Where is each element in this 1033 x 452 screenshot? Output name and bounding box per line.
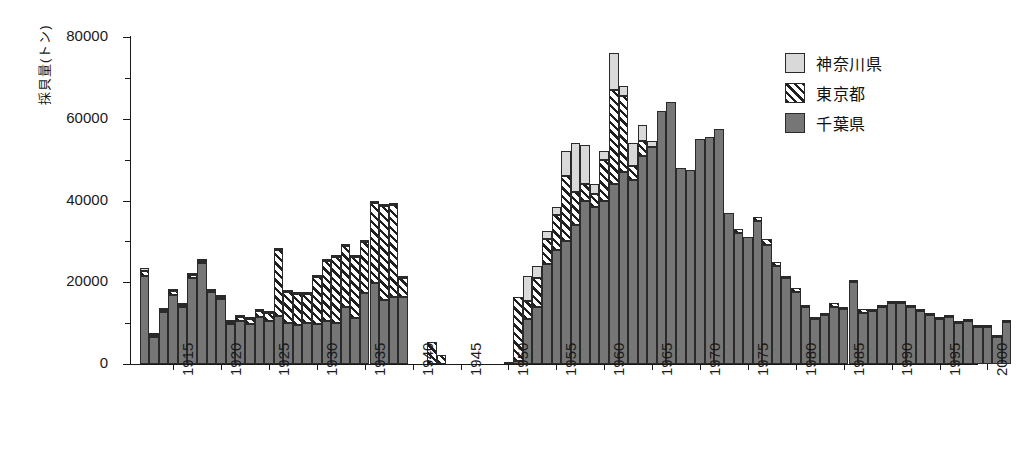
bar-segment-chiba bbox=[398, 297, 408, 364]
bar bbox=[657, 111, 667, 364]
bar-segment-kanagawa bbox=[245, 317, 255, 319]
x-tick-label: 1955 bbox=[562, 343, 579, 376]
bar bbox=[877, 305, 887, 364]
bar-segment-tokyo bbox=[437, 355, 447, 364]
bar-segment-tokyo bbox=[609, 90, 619, 184]
bar-segment-kanagawa bbox=[619, 86, 629, 96]
bar-segment-chiba bbox=[264, 321, 274, 364]
y-tick-major bbox=[123, 119, 130, 120]
bar bbox=[839, 307, 849, 364]
bar-segment-kanagawa bbox=[398, 276, 408, 278]
bar-segment-kanagawa bbox=[322, 259, 332, 261]
y-tick-minor bbox=[125, 241, 130, 242]
bar-segment-tokyo bbox=[283, 292, 293, 323]
bar-segment-tokyo bbox=[963, 319, 973, 321]
bar-segment-tokyo bbox=[906, 305, 916, 307]
bar-segment-kanagawa bbox=[264, 311, 274, 313]
bar-segment-kanagawa bbox=[360, 240, 370, 242]
bar-segment-tokyo bbox=[322, 261, 332, 320]
legend-item: 千葉県 bbox=[785, 108, 1015, 138]
bar-segment-chiba bbox=[619, 172, 629, 364]
bar-segment-kanagawa bbox=[216, 295, 226, 297]
legend-label: 千葉県 bbox=[816, 111, 866, 135]
bar-segment-chiba bbox=[590, 207, 600, 364]
bar-segment-chiba bbox=[772, 266, 782, 364]
y-tick-major bbox=[123, 282, 130, 283]
y-tick-label: 60000 bbox=[66, 109, 108, 126]
legend-label: 東京都 bbox=[816, 81, 866, 105]
bar bbox=[628, 143, 638, 364]
x-tick bbox=[269, 364, 270, 370]
bar-segment-chiba bbox=[781, 278, 791, 364]
x-tick-label: 1940 bbox=[419, 343, 436, 376]
bar-segment-chiba bbox=[714, 129, 724, 364]
bar-segment-chiba bbox=[647, 147, 657, 364]
bar bbox=[341, 245, 351, 364]
bar-segment-tokyo bbox=[370, 203, 380, 283]
bar bbox=[820, 313, 830, 364]
bar bbox=[590, 184, 600, 364]
bar-segment-chiba bbox=[599, 201, 609, 365]
x-tick-label: 1975 bbox=[754, 343, 771, 376]
bar bbox=[159, 308, 169, 364]
bar bbox=[312, 276, 322, 364]
x-tick bbox=[221, 364, 222, 370]
x-tick bbox=[940, 364, 941, 370]
bar-segment-chiba bbox=[207, 292, 217, 364]
bar bbox=[772, 262, 782, 364]
bar-segment-kanagawa bbox=[638, 125, 648, 141]
bar-segment-tokyo bbox=[839, 307, 849, 309]
x-tick-label: 1950 bbox=[514, 343, 531, 376]
bar-segment-tokyo bbox=[868, 309, 878, 311]
y-tick-major bbox=[123, 364, 130, 365]
bar-segment-tokyo bbox=[245, 319, 255, 324]
bar-segment-chiba bbox=[216, 299, 226, 364]
bar-segment-tokyo bbox=[820, 313, 830, 315]
bar-segment-kanagawa bbox=[149, 333, 159, 335]
bar-segment-chiba bbox=[542, 264, 552, 364]
bar-segment-chiba bbox=[389, 297, 399, 364]
bar-segment-chiba bbox=[140, 276, 150, 364]
bar-segment-kanagawa bbox=[379, 204, 389, 206]
bar-segment-tokyo bbox=[619, 96, 629, 172]
bar-segment-kanagawa bbox=[274, 248, 284, 250]
bar-segment-chiba bbox=[686, 170, 696, 364]
bar-segment-tokyo bbox=[877, 305, 887, 307]
bar-segment-tokyo bbox=[753, 217, 763, 221]
bar-segment-tokyo bbox=[638, 141, 648, 155]
bar bbox=[264, 312, 274, 364]
x-tick bbox=[796, 364, 797, 370]
bar bbox=[666, 102, 676, 364]
legend-item: 神奈川県 bbox=[785, 48, 1015, 78]
bar-segment-chiba bbox=[360, 293, 370, 364]
x-tick-label: 1985 bbox=[850, 343, 867, 376]
bar-segment-tokyo bbox=[178, 305, 188, 307]
bar-segment-tokyo bbox=[849, 280, 859, 282]
bar bbox=[676, 168, 686, 364]
bar-segment-tokyo bbox=[398, 278, 408, 296]
bar-segment-tokyo bbox=[561, 176, 571, 241]
bar bbox=[935, 317, 945, 364]
bar-segment-tokyo bbox=[255, 311, 265, 317]
x-tick bbox=[652, 364, 653, 370]
bar-segment-kanagawa bbox=[207, 289, 217, 291]
chart-legend: 神奈川県 東京都 千葉県 bbox=[785, 48, 1015, 138]
bar-segment-tokyo bbox=[216, 297, 226, 299]
x-tick-label: 1990 bbox=[898, 343, 915, 376]
bar-segment-tokyo bbox=[350, 257, 360, 318]
bar-segment-tokyo bbox=[810, 317, 820, 319]
bar-segment-chiba bbox=[312, 324, 322, 364]
bar-segment-chiba bbox=[609, 184, 619, 364]
bar bbox=[638, 125, 648, 364]
bar-segment-chiba bbox=[532, 307, 542, 364]
bar-segment-chiba bbox=[350, 318, 360, 364]
bar bbox=[302, 293, 312, 364]
chart-root: 採貝量(トン) 020000400006000080000 1915192019… bbox=[0, 0, 1033, 452]
bar-segment-chiba bbox=[935, 319, 945, 364]
x-tick bbox=[508, 364, 509, 370]
bar-segment-kanagawa bbox=[561, 151, 571, 176]
bar bbox=[781, 276, 791, 364]
bar bbox=[379, 205, 389, 364]
bar bbox=[695, 139, 705, 364]
bar bbox=[255, 310, 265, 364]
